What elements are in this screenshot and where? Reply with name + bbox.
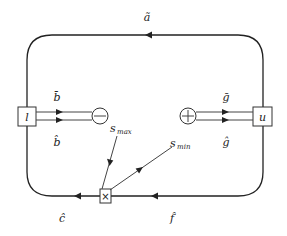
l-box: l: [18, 107, 36, 126]
label-s-min: s min: [170, 137, 191, 151]
arrow-b-hat-icon: [56, 117, 63, 123]
arrow-b-bar-icon: [56, 109, 63, 115]
minus-node: [92, 108, 108, 124]
label-a-tilde: ã: [144, 11, 151, 24]
u-box-label: u: [259, 111, 266, 124]
loop-diagram: l u × ã b̄ b̂ ḡ ĝ ĉ f̂ s max: [0, 0, 287, 236]
s-max-base: s: [110, 122, 116, 135]
s-min-sub: min: [177, 143, 191, 151]
arrow-s-min-icon: [136, 167, 143, 174]
s-max-sub: max: [117, 128, 132, 136]
label-f-hat: f̂: [169, 212, 176, 225]
arrow-bottom-right-icon: [151, 193, 158, 200]
multiply-icon: ×: [101, 191, 109, 202]
s-min-base: s: [170, 137, 176, 150]
arrow-top-left-icon: [145, 32, 152, 39]
label-g-hat: ĝ: [222, 136, 229, 149]
label-c-hat: ĉ: [59, 212, 65, 225]
plus-node: [180, 108, 196, 124]
label-s-max: s max: [110, 122, 132, 136]
l-box-label: l: [25, 111, 29, 124]
arrow-g-hat-icon: [222, 117, 229, 123]
u-box: u: [253, 107, 272, 126]
arrow-bottom-left-icon: [74, 193, 81, 200]
label-g-bar: ḡ: [222, 91, 229, 104]
multiply-node: ×: [100, 189, 111, 203]
arrow-s-max-icon: [107, 159, 113, 166]
arrow-g-bar-icon: [222, 109, 229, 115]
label-b-bar: b̄: [53, 91, 60, 104]
label-b-hat: b̂: [53, 135, 60, 149]
